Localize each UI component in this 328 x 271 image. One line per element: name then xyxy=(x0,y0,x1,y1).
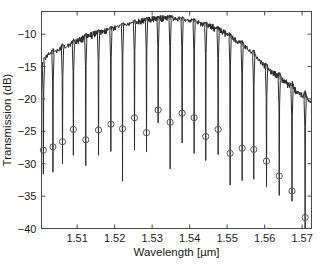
y-tick-label: −30 xyxy=(18,158,37,170)
x-tick-label: 1.57 xyxy=(291,232,312,244)
x-axis-title: Wavelength [µm] xyxy=(133,246,219,258)
x-tick-label: 1.54 xyxy=(179,232,200,244)
figure-container: 1.511.521.531.541.551.561.57−10−15−20−25… xyxy=(0,0,328,271)
x-tick-label: 1.56 xyxy=(254,232,275,244)
y-tick-label: −35 xyxy=(18,190,37,202)
transmission-spectrum-plot: 1.511.521.531.541.551.561.57−10−15−20−25… xyxy=(0,0,328,271)
y-tick-label: −15 xyxy=(18,61,37,73)
x-tick-label: 1.53 xyxy=(141,232,162,244)
y-axis-title: Transmission (dB) xyxy=(1,73,13,166)
y-tick-label: −10 xyxy=(18,28,37,40)
x-tick-label: 1.52 xyxy=(104,232,125,244)
x-tick-label: 1.55 xyxy=(216,232,237,244)
caption-strip xyxy=(0,262,328,271)
y-tick-label: −25 xyxy=(18,125,37,137)
x-tick-label: 1.51 xyxy=(66,232,87,244)
y-tick-label: −20 xyxy=(18,93,37,105)
y-tick-label: −40 xyxy=(18,223,37,235)
